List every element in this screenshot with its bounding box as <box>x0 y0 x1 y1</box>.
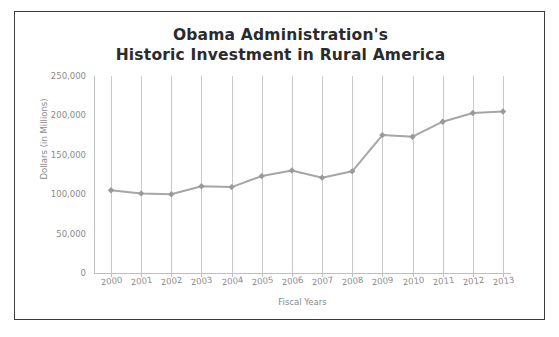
plot-area <box>94 76 511 273</box>
data-point-2001 <box>138 190 144 196</box>
y-tick-label-250000: 250,000 <box>51 71 86 81</box>
y-axis-tick-labels: 050,000100,000150,000200,000250,000 <box>7 76 86 273</box>
data-point-2002 <box>168 191 174 197</box>
x-tick-label-2006: 2006 <box>281 275 304 288</box>
data-point-2005 <box>259 173 265 179</box>
x-tick-label-2003: 2003 <box>191 275 214 288</box>
series-line-investment <box>94 76 511 273</box>
data-point-2003 <box>198 183 204 189</box>
chart-title-line-2: Historic Investment in Rural America <box>15 45 546 65</box>
x-tick-label-2013: 2013 <box>492 275 515 288</box>
data-point-2013 <box>500 108 506 114</box>
x-tick-label-2004: 2004 <box>221 275 244 288</box>
y-tick-label-100000: 100,000 <box>51 189 86 199</box>
y-tick-label-150000: 150,000 <box>51 150 86 160</box>
x-tick-label-2005: 2005 <box>251 275 274 288</box>
y-tick-label-50000: 50,000 <box>56 229 86 239</box>
x-tick-label-2007: 2007 <box>311 275 334 288</box>
x-axis-title: Fiscal Years <box>94 297 511 307</box>
chart-title-line-1: Obama Administration's <box>15 25 546 45</box>
x-tick-label-2001: 2001 <box>130 275 153 288</box>
x-tick-label-2011: 2011 <box>432 275 455 288</box>
data-point-2011 <box>439 119 445 125</box>
data-point-2006 <box>289 167 295 173</box>
x-tick-label-2000: 2000 <box>100 275 123 288</box>
x-tick-label-2008: 2008 <box>341 275 364 288</box>
y-tick-label-0: 0 <box>81 268 86 278</box>
data-point-2000 <box>108 187 114 193</box>
x-tick-label-2010: 2010 <box>402 275 425 288</box>
data-point-2007 <box>319 174 325 180</box>
y-tick-label-200000: 200,000 <box>51 110 86 120</box>
x-axis-tick-labels: 2000200120022003200420052006200720082009… <box>94 276 511 298</box>
chart-title: Obama Administration's Historic Investme… <box>15 25 546 65</box>
x-tick-label-2009: 2009 <box>372 275 395 288</box>
data-point-2004 <box>228 184 234 190</box>
data-point-2010 <box>409 133 415 139</box>
x-tick-label-2002: 2002 <box>161 275 184 288</box>
chart-frame: Obama Administration's Historic Investme… <box>14 11 545 320</box>
chart-figure: Obama Administration's Historic Investme… <box>0 0 559 337</box>
data-point-2012 <box>470 110 476 116</box>
x-tick-label-2012: 2012 <box>462 275 485 288</box>
